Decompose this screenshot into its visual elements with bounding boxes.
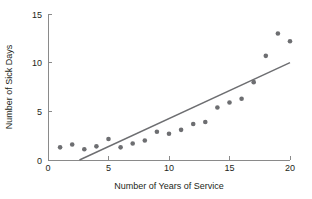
x-tick-label: 15 — [224, 163, 234, 173]
data-point — [155, 129, 160, 134]
x-axis-tick-labels: 05101520 — [45, 163, 295, 173]
data-point — [276, 31, 281, 36]
data-points — [58, 31, 293, 151]
y-tick-label: 0 — [37, 156, 42, 166]
data-point — [106, 137, 111, 142]
x-axis-title: Number of Years of Service — [114, 181, 224, 191]
regression-line — [79, 63, 290, 160]
axes — [48, 14, 290, 160]
y-axis-tick-labels: 051015 — [32, 10, 42, 166]
data-point — [82, 147, 87, 152]
data-point — [167, 131, 172, 136]
data-point — [203, 120, 208, 125]
trend-line — [79, 63, 290, 160]
y-tick-label: 15 — [32, 10, 42, 20]
data-point — [70, 142, 75, 147]
data-point — [288, 39, 293, 44]
x-tick-label: 10 — [164, 163, 174, 173]
y-tick-label: 5 — [37, 107, 42, 117]
data-point — [179, 128, 184, 133]
data-point — [58, 145, 63, 150]
y-axis-title: Number of Sick Days — [4, 44, 14, 129]
x-tick-label: 20 — [285, 163, 295, 173]
data-point — [191, 122, 196, 127]
data-point — [264, 54, 269, 59]
data-point — [118, 145, 123, 150]
scatter-plot-figure: 05101520 051015 Number of Years of Servi… — [0, 0, 312, 199]
data-point — [251, 80, 256, 85]
data-point — [94, 144, 99, 149]
data-point — [143, 138, 148, 143]
tick-marks — [48, 14, 290, 160]
data-point — [215, 105, 220, 110]
data-point — [227, 100, 232, 105]
x-tick-label: 0 — [45, 163, 50, 173]
plot-canvas: 05101520 051015 Number of Years of Servi… — [0, 0, 312, 199]
data-point — [130, 141, 135, 146]
x-tick-label: 5 — [106, 163, 111, 173]
y-tick-label: 10 — [32, 58, 42, 68]
data-point — [239, 96, 244, 101]
